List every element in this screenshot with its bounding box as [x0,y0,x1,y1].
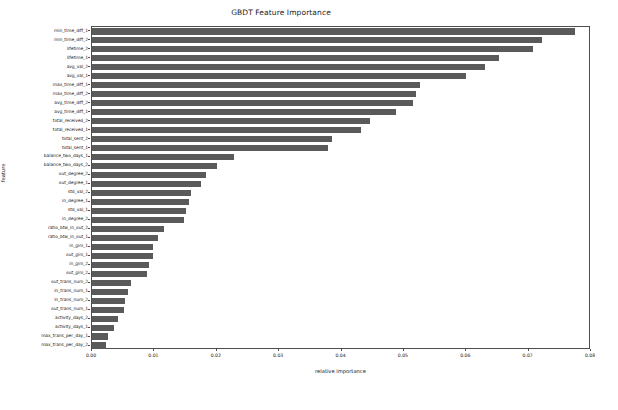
y-tick-mark [88,120,90,121]
bar-row [92,189,589,198]
plot-axes [91,26,590,349]
bar[interactable] [92,280,131,286]
bar-row [92,135,589,144]
bar-row [92,269,589,278]
bar-row [92,162,589,171]
y-axis-label: feature [0,164,6,183]
y-tick-mark [88,84,90,85]
y-tick-mark [88,93,90,94]
bar[interactable] [92,136,332,142]
y-tick-mark [88,237,90,238]
bar[interactable] [92,163,217,169]
bar[interactable] [92,82,420,88]
bar[interactable] [92,154,234,160]
x-tick-mark [216,349,217,351]
y-tick-label: in_trans_num_2 [2,297,88,302]
bar[interactable] [92,253,153,259]
bar-row [92,81,589,90]
y-tick-mark [88,66,90,67]
bar[interactable] [92,271,147,277]
bar-row [92,233,589,242]
bar[interactable] [92,64,485,70]
bar-row [92,99,589,108]
bar[interactable] [92,208,186,214]
x-tick-mark [465,349,466,351]
y-tick-mark [88,138,90,139]
y-tick-mark [88,48,90,49]
y-tick-mark [88,282,90,283]
y-tick-mark [88,327,90,328]
bar-row [92,90,589,99]
bar-row [92,296,589,305]
bar[interactable] [92,262,149,268]
bar-row [92,323,589,332]
bar[interactable] [92,217,184,223]
bar[interactable] [92,333,108,339]
x-tick-label: 0.07 [523,353,533,358]
y-tick-mark [88,336,90,337]
x-tick-label: 0.01 [148,353,158,358]
y-tick-mark [88,30,90,31]
y-tick-label: in_trans_num_1 [2,288,88,293]
bar[interactable] [92,145,328,151]
y-tick-mark [88,228,90,229]
y-tick-mark [88,111,90,112]
x-axis-label: relative importance [91,368,590,374]
bar[interactable] [92,127,361,133]
bar-row [92,224,589,233]
bar-row [92,171,589,180]
x-tick-mark [278,349,279,351]
bar[interactable] [92,226,164,232]
bar[interactable] [92,342,106,348]
y-tick-label: lifetime_2 [2,46,88,51]
y-tick-mark [88,219,90,220]
bar[interactable] [92,28,575,34]
bar[interactable] [92,235,158,241]
y-tick-label: std_val_2 [2,189,88,194]
y-tick-label: total_received_2 [2,118,88,123]
bar[interactable] [92,37,542,43]
bar-row [92,126,589,135]
y-tick-mark [88,264,90,265]
y-tick-label: activity_days_1 [2,324,88,329]
bar[interactable] [92,73,466,79]
bar-row [92,278,589,287]
bar[interactable] [92,118,370,124]
bar[interactable] [92,100,413,106]
bar[interactable] [92,172,206,178]
bar[interactable] [92,91,416,97]
bar-row [92,260,589,269]
bar-row [92,108,589,117]
y-tick-label: activity_days_2 [2,315,88,320]
y-axis-tick-labels: min_time_diff_1min_time_diff_2lifetime_2… [0,26,88,349]
bar[interactable] [92,109,396,115]
bar-row [92,251,589,260]
x-tick-label: 0.06 [460,353,470,358]
y-tick-label: in_degree_1 [2,198,88,203]
y-tick-mark [88,273,90,274]
y-tick-mark [88,318,90,319]
bar-row [92,314,589,323]
y-tick-mark [88,147,90,148]
bar[interactable] [92,55,499,61]
y-tick-mark [88,300,90,301]
y-tick-mark [88,183,90,184]
bar[interactable] [92,46,533,52]
bar[interactable] [92,190,191,196]
bar[interactable] [92,199,189,205]
y-tick-label: avg_time_diff_2 [2,100,88,105]
y-tick-mark [88,210,90,211]
bar[interactable] [92,181,201,187]
bar[interactable] [92,307,124,313]
y-tick-label: max_time_diff_1 [2,82,88,87]
bar[interactable] [92,244,153,250]
y-tick-label: min_time_diff_2 [2,37,88,42]
bar[interactable] [92,325,114,331]
bar[interactable] [92,298,125,304]
bar[interactable] [92,316,118,322]
x-tick-label: 0.00 [86,353,96,358]
y-tick-mark [88,75,90,76]
x-axis-ticks: 0.000.010.020.030.040.050.060.070.08 [91,349,590,369]
bar-row [92,180,589,189]
bar[interactable] [92,289,128,295]
